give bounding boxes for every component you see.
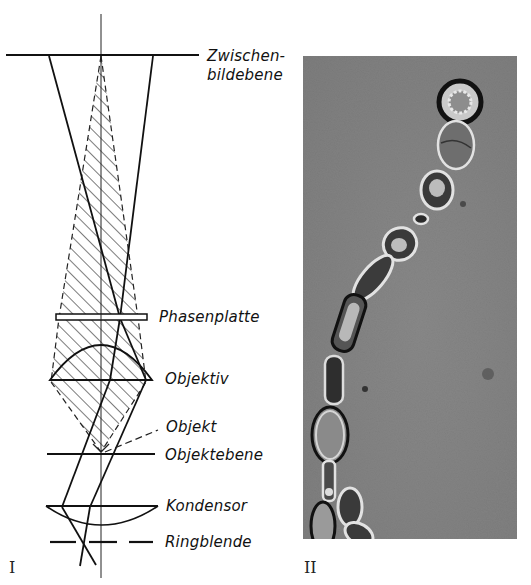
label-kondensor: Kondensor: [166, 497, 248, 515]
cell: [325, 356, 343, 404]
cell: [312, 407, 348, 463]
panel-label-i: I: [9, 558, 15, 577]
cell: [311, 502, 335, 539]
direct-ray-right: [120, 56, 153, 318]
label-zwischenbildebene-1: Zwischen-: [206, 47, 285, 65]
phase-contrast-micrograph: [303, 56, 517, 539]
label-objektebene: Objektebene: [165, 446, 263, 464]
label-zwischenbildebene-2: bildebene: [207, 66, 283, 84]
label-objekt: Objekt: [166, 418, 217, 436]
label-objektiv: Objektiv: [165, 370, 230, 388]
panel-label-ii: II: [304, 558, 317, 577]
cell: [438, 121, 474, 169]
label-phasenplatte: Phasenplatte: [159, 308, 260, 326]
cell: [338, 488, 362, 526]
ray-below-condenser-2: [80, 507, 90, 566]
ray-below-condenser-1: [62, 507, 96, 565]
label-ringblende: Ringblende: [165, 533, 252, 551]
phase-contrast-ray-diagram: Zwischen- bildebene Phasenplatte Objekti…: [0, 0, 300, 585]
